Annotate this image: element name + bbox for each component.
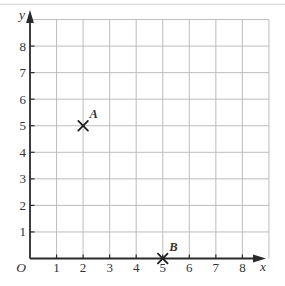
y-tick-label: 5: [20, 118, 27, 133]
y-tick-label: 8: [20, 39, 27, 54]
coordinate-grid-chart: 12345678 12345678 O x y AB: [0, 0, 285, 286]
y-tick-label: 4: [20, 145, 27, 160]
x-tick-label: 7: [213, 260, 220, 275]
x-tick-label: 4: [133, 260, 140, 275]
x-axis-label: x: [259, 259, 266, 274]
x-tick-label: 6: [186, 260, 193, 275]
y-tick-label: 2: [20, 198, 27, 213]
x-tick-label: 3: [106, 260, 113, 275]
origin-label: O: [16, 260, 26, 275]
x-tick-label: 1: [53, 260, 60, 275]
y-tick-label: 6: [20, 92, 27, 107]
point-label: B: [168, 240, 177, 254]
worksheet-figure: 12345678 12345678 O x y AB: [0, 0, 285, 286]
y-tick-label: 3: [20, 171, 27, 186]
y-tick-label: 7: [20, 65, 27, 80]
x-tick-label: 2: [80, 260, 87, 275]
y-axis-label: y: [17, 7, 25, 22]
x-tick-label: 8: [239, 260, 246, 275]
point-label: A: [89, 107, 98, 121]
y-tick-label: 1: [20, 224, 27, 239]
